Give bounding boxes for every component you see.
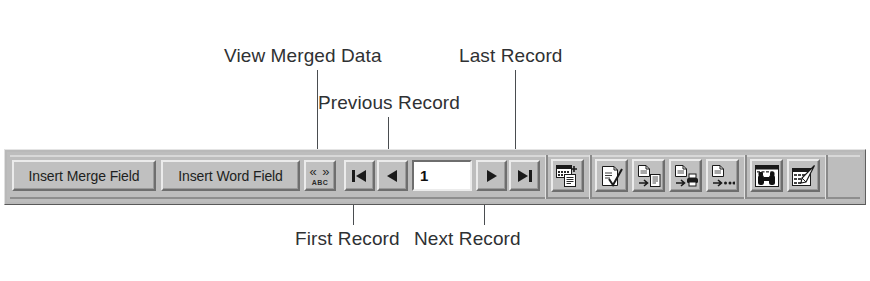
toolbar-separator-2 <box>589 155 592 199</box>
check-for-errors-icon <box>600 165 624 187</box>
view-merged-data-button[interactable]: « » ABC <box>304 160 336 191</box>
edit-data-source-icon <box>792 165 816 187</box>
callout-label-view-merged-data: View Merged Data <box>224 46 382 65</box>
callout-label-next-record: Next Record <box>414 229 521 248</box>
previous-record-button[interactable] <box>377 160 408 191</box>
check-for-errors-button[interactable] <box>595 159 628 192</box>
next-record-icon <box>486 170 497 182</box>
last-record-icon <box>517 170 532 182</box>
merge-to-new-document-button[interactable] <box>632 159 665 192</box>
toolbar-separator-4 <box>825 155 828 199</box>
find-record-button[interactable] <box>750 159 783 192</box>
insert-merge-field-button[interactable]: Insert Merge Field <box>12 160 156 191</box>
mail-merge-toolbar: Insert Merge Field Insert Word Field « »… <box>4 149 866 205</box>
toolbar-separator-3 <box>744 155 747 199</box>
toolbar-empty-area <box>830 155 862 196</box>
merge-to-new-document-icon <box>637 165 661 187</box>
record-number-input[interactable]: 1 <box>412 160 472 191</box>
last-record-button[interactable] <box>509 160 540 191</box>
view-merged-data-icon: « » ABC <box>309 165 330 186</box>
toolbar-bottom-shadow <box>10 197 860 199</box>
merge-button[interactable] <box>706 159 739 192</box>
toolbar-separator-1 <box>545 155 548 199</box>
previous-record-icon <box>387 170 398 182</box>
merge-icon <box>711 165 735 187</box>
toolbar-top-highlight <box>10 155 860 157</box>
first-record-icon <box>352 170 367 182</box>
mail-merge-helper-button[interactable] <box>551 159 584 192</box>
find-record-binoculars-icon <box>755 165 779 187</box>
next-record-button[interactable] <box>476 160 507 191</box>
first-record-button[interactable] <box>344 160 375 191</box>
merge-to-printer-button[interactable] <box>669 159 702 192</box>
insert-word-field-button[interactable]: Insert Word Field <box>161 160 300 191</box>
callout-label-first-record: First Record <box>295 229 400 248</box>
edit-data-source-button[interactable] <box>787 159 820 192</box>
callout-label-previous-record: Previous Record <box>318 93 460 112</box>
mail-merge-helper-icon <box>556 165 580 187</box>
merge-to-printer-icon <box>674 165 698 187</box>
callout-label-last-record: Last Record <box>459 46 563 65</box>
